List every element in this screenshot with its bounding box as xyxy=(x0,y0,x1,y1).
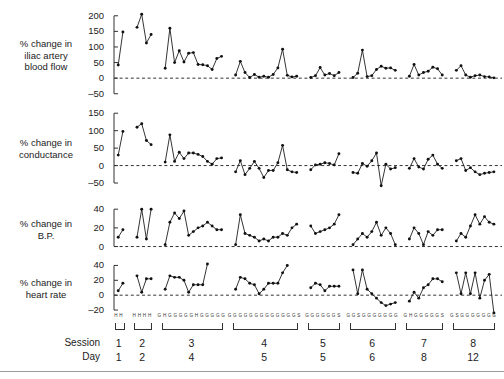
data-point xyxy=(150,33,153,36)
data-point xyxy=(408,238,411,241)
data-point xyxy=(394,301,397,304)
data-point xyxy=(140,291,143,294)
data-point xyxy=(239,276,242,279)
data-point xyxy=(234,243,237,246)
data-point xyxy=(328,226,331,229)
data-point xyxy=(267,239,270,242)
data-point xyxy=(150,208,153,211)
data-point xyxy=(314,74,317,77)
data-point xyxy=(281,48,284,51)
day-number: 12 xyxy=(453,351,493,363)
data-point xyxy=(483,215,486,218)
data-point xyxy=(413,157,416,160)
data-point xyxy=(140,122,143,125)
data-point xyxy=(337,71,340,74)
data-point xyxy=(356,238,359,241)
data-point xyxy=(436,228,439,231)
data-point xyxy=(469,76,472,79)
data-point xyxy=(469,292,472,295)
data-point xyxy=(117,236,120,239)
data-point xyxy=(192,152,195,155)
data-point xyxy=(286,264,289,267)
data-point xyxy=(140,13,143,16)
series-line-session-3 xyxy=(165,135,221,164)
data-point xyxy=(267,169,270,172)
data-point xyxy=(492,170,495,173)
data-point xyxy=(427,283,430,286)
session-row-label: Session xyxy=(36,337,100,348)
data-point xyxy=(258,76,261,79)
session-bracket xyxy=(308,323,340,330)
series-line-session-6 xyxy=(353,153,395,186)
data-point xyxy=(488,221,491,224)
data-point xyxy=(337,213,340,216)
data-point xyxy=(375,297,378,300)
data-point xyxy=(380,65,383,68)
data-point xyxy=(380,301,383,304)
session-number: 3 xyxy=(171,337,211,349)
data-point xyxy=(460,157,463,160)
y-tick-label: 200 xyxy=(78,10,104,21)
data-point xyxy=(478,74,481,77)
data-point xyxy=(328,162,331,165)
data-point xyxy=(389,232,392,235)
data-point xyxy=(295,223,298,226)
data-point xyxy=(323,228,326,231)
data-point xyxy=(492,223,495,226)
day-number: 5 xyxy=(303,351,343,363)
data-point xyxy=(375,152,378,155)
data-point xyxy=(370,230,373,233)
data-point xyxy=(361,162,364,165)
data-point xyxy=(183,210,186,213)
data-point xyxy=(328,285,331,288)
data-point xyxy=(211,163,214,166)
data-point xyxy=(272,236,275,239)
session-bracket xyxy=(453,323,495,330)
data-point xyxy=(201,225,204,228)
data-point xyxy=(366,236,369,239)
data-point xyxy=(239,213,242,216)
data-point xyxy=(211,68,214,71)
data-point xyxy=(281,232,284,235)
series-line-session-7 xyxy=(409,64,442,76)
plot-panel-conductance xyxy=(112,108,504,192)
data-point xyxy=(178,217,181,220)
y-tick-label: 100 xyxy=(78,41,104,52)
session-number: 6 xyxy=(352,337,392,349)
data-point xyxy=(262,176,265,179)
data-point xyxy=(319,230,322,233)
data-point xyxy=(352,171,355,174)
data-point xyxy=(460,232,463,235)
data-point xyxy=(272,169,275,172)
data-point xyxy=(436,163,439,166)
data-point xyxy=(389,303,392,306)
data-point xyxy=(258,292,261,295)
data-point xyxy=(192,283,195,286)
data-point xyxy=(483,279,486,282)
data-point xyxy=(333,285,336,288)
data-point xyxy=(380,184,383,187)
data-point xyxy=(460,292,463,295)
data-point xyxy=(178,151,181,154)
data-point xyxy=(483,75,486,78)
data-point xyxy=(323,161,326,164)
data-point xyxy=(370,292,373,295)
data-point xyxy=(136,126,139,129)
data-point xyxy=(262,288,265,291)
data-point xyxy=(164,161,167,164)
data-point xyxy=(464,271,467,274)
y-tick-label: 50 xyxy=(78,142,104,153)
data-point xyxy=(356,172,359,175)
data-point xyxy=(192,51,195,54)
data-point xyxy=(145,139,148,142)
data-point xyxy=(394,243,397,246)
data-point xyxy=(206,64,209,67)
data-point xyxy=(455,159,458,162)
data-point xyxy=(474,74,477,77)
data-point xyxy=(427,230,430,233)
data-point xyxy=(422,286,425,289)
data-point xyxy=(441,280,444,283)
data-point xyxy=(417,166,420,169)
y-tick-label: 0 xyxy=(78,160,104,171)
data-point xyxy=(187,234,190,237)
